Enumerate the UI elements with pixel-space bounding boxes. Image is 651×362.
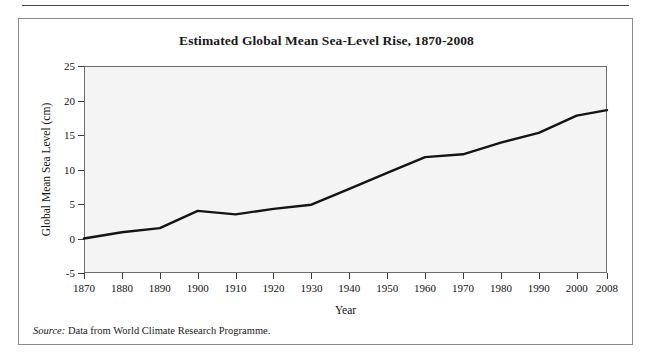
chart-title: Estimated Global Mean Sea-Level Rise, 18… xyxy=(19,33,634,49)
plot-wrapper: -50510152025 187018801890190019101920193… xyxy=(84,66,607,273)
sea-level-line-chart xyxy=(84,66,607,273)
x-tick-label: 1870 xyxy=(73,273,95,294)
x-tick-label: 1950 xyxy=(376,273,398,294)
x-tick-label: 1970 xyxy=(452,273,474,294)
x-tick-label: 1990 xyxy=(528,273,550,294)
source-text: Data from World Climate Research Program… xyxy=(65,325,270,336)
y-tick-label: 5 xyxy=(70,198,85,210)
x-tick-label: 1940 xyxy=(338,273,360,294)
x-tick-label: 1900 xyxy=(187,273,209,294)
figure-page: Estimated Global Mean Sea-Level Rise, 18… xyxy=(0,0,651,362)
x-tick-label: 1980 xyxy=(490,273,512,294)
x-tick-label: 2000 xyxy=(566,273,588,294)
y-tick-label: 25 xyxy=(64,60,84,72)
x-tick-label: 1910 xyxy=(225,273,247,294)
x-tick-label: 1890 xyxy=(149,273,171,294)
data-series-line xyxy=(84,110,607,238)
x-tick-label: 1880 xyxy=(111,273,133,294)
y-axis-title: Global Mean Sea Level (cm) xyxy=(40,66,56,273)
x-tick-label: 2008 xyxy=(596,273,618,294)
x-axis-title: Year xyxy=(84,304,607,316)
top-divider-rule xyxy=(22,5,629,6)
y-tick-label: 10 xyxy=(64,164,84,176)
x-tick-label: 1920 xyxy=(262,273,284,294)
figure-container: Estimated Global Mean Sea-Level Rise, 18… xyxy=(18,18,633,345)
x-tick-label: 1960 xyxy=(414,273,436,294)
source-label: Source: xyxy=(33,325,65,336)
y-tick-label: 15 xyxy=(64,129,84,141)
y-tick-label: 0 xyxy=(70,233,85,245)
source-note: Source: Data from World Climate Research… xyxy=(33,325,270,336)
y-tick-label: 20 xyxy=(64,95,84,107)
x-tick-label: 1930 xyxy=(300,273,322,294)
